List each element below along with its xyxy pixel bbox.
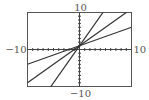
x-max-label: 10	[134, 44, 147, 55]
y-max-label: 10	[74, 2, 87, 13]
y-min-label: −10	[70, 88, 91, 99]
chart: 10 −10 −10 10	[0, 0, 149, 100]
x-min-label: −10	[5, 44, 26, 55]
